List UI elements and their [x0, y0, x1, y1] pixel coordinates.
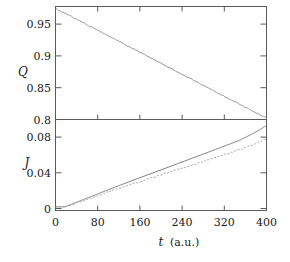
upper-y-ticks	[56, 24, 267, 119]
lower-ytick-label-2: 0.08	[27, 131, 52, 144]
upper-panel-axis-label: Q	[18, 65, 28, 79]
upper-panel: 0.8 0.85 0.9 0.95 Q	[18, 7, 266, 127]
series-j-solid-generated	[56, 126, 267, 207]
xtick-label-4: 320	[214, 216, 235, 229]
x-axis-title: t (a.u.)	[159, 235, 200, 249]
lower-x-ticks	[98, 206, 225, 211]
xtick-label-0: 0	[52, 216, 59, 229]
upper-ytick-label-3: 0.95	[27, 18, 52, 31]
series-j-dashed-generated	[56, 138, 267, 207]
upper-ytick-label-2: 0.9	[34, 50, 52, 63]
xtick-label-1: 80	[91, 216, 105, 229]
lower-panel: 0 0.04 0.08 J	[22, 120, 267, 216]
lower-ytick-label-0: 0	[44, 203, 51, 216]
xtick-label-3: 240	[172, 216, 193, 229]
lower-panel-axis-label: J	[22, 156, 31, 170]
lower-ytick-label-1: 0.04	[27, 167, 52, 180]
x-axis-title-symbol: t	[159, 235, 164, 249]
x-axis-labels: 0 80 160 240 320 400	[52, 216, 277, 229]
chart-figure-root: 0.8 0.85 0.9 0.95 Q	[0, 0, 290, 262]
x-axis-title-unit: (a.u.)	[170, 236, 199, 249]
upper-ytick-label-1: 0.85	[27, 82, 52, 95]
xtick-label-5: 400	[256, 216, 277, 229]
xtick-label-2: 160	[129, 216, 150, 229]
upper-ytick-label-0: 0.8	[34, 114, 52, 127]
two-panel-line-chart: 0.8 0.85 0.9 0.95 Q	[0, 0, 290, 262]
lower-panel-frame	[56, 120, 267, 211]
